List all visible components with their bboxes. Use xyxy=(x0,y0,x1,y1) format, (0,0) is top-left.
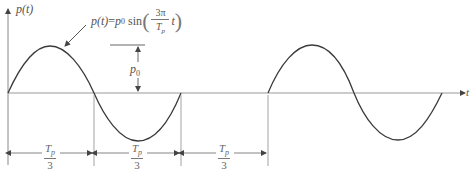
formula-func: sin xyxy=(128,14,142,29)
y-axis-label: p(t) xyxy=(16,3,33,15)
interval-label-1: Tp 3 xyxy=(44,143,56,171)
formula: p(t) = p0 sin ( 3π Tp t ) xyxy=(91,7,182,35)
formula-left-paren: ( xyxy=(142,10,149,32)
interval-label-2: Tp 3 xyxy=(131,143,143,171)
formula-amplitude-sub: 0 xyxy=(121,17,125,26)
formula-lhs: p(t) xyxy=(91,14,108,29)
formula-pointer-arrow xyxy=(65,25,86,46)
formula-right-paren: ) xyxy=(175,10,182,32)
diagram-graphics xyxy=(0,0,472,186)
formula-denominator-sub: p xyxy=(161,27,165,35)
formula-numerator: 3π xyxy=(155,7,165,18)
formula-fraction: 3π Tp xyxy=(151,7,169,35)
interval-label-3: Tp 3 xyxy=(218,143,230,171)
x-axis-label: t xyxy=(466,87,469,98)
sine-pulse-diagram: p(t) t p(t) = p0 sin ( 3π Tp t ) p0 Tp 3… xyxy=(0,0,472,186)
amplitude-label: p0 xyxy=(130,63,140,78)
